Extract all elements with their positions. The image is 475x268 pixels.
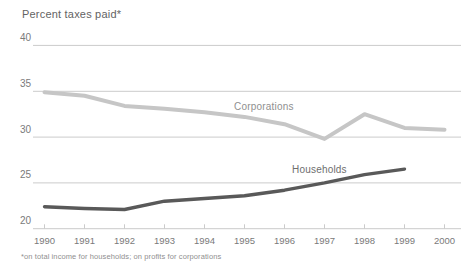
x-tick-label-2000: 2000	[434, 235, 455, 246]
x-tick-label-1992: 1992	[114, 235, 135, 246]
y-tick-label-25: 25	[20, 169, 32, 180]
y-tick-label-40: 40	[20, 32, 32, 43]
x-tick-label-1990: 1990	[34, 235, 55, 246]
corporations-series-label: Corporations	[234, 101, 294, 112]
y-tick-label-35: 35	[20, 78, 32, 89]
households-line	[45, 169, 405, 209]
x-tick-label-1994: 1994	[194, 235, 215, 246]
x-tick-label-1996: 1996	[274, 235, 295, 246]
chart-footnote: *on total income for households; on prof…	[21, 252, 221, 261]
x-tick-label-1998: 1998	[354, 235, 375, 246]
corporations-line	[45, 92, 445, 139]
x-tick-label-1993: 1993	[154, 235, 175, 246]
x-tick-label-1991: 1991	[74, 235, 95, 246]
x-tick-label-1999: 1999	[394, 235, 415, 246]
y-tick-label-20: 20	[20, 215, 32, 226]
plot-area: 4035302520199019911992199319941995199619…	[0, 0, 475, 268]
chart-title: Percent taxes paid*	[22, 8, 121, 20]
y-tick-label-30: 30	[20, 124, 32, 135]
x-tick-label-1995: 1995	[234, 235, 255, 246]
tax-rate-line-chart: 4035302520199019911992199319941995199619…	[0, 0, 475, 268]
households-series-label: Households	[292, 164, 347, 175]
x-tick-label-1997: 1997	[314, 235, 335, 246]
